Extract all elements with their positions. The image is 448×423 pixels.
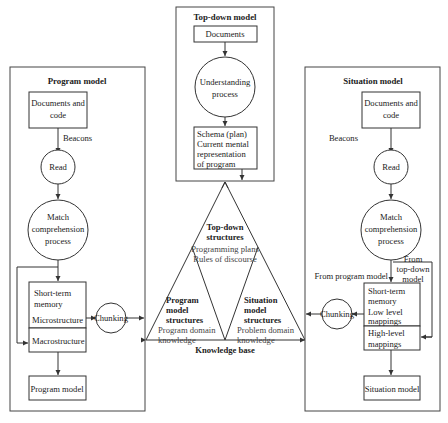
sm-from-top-down-1: From <box>404 254 423 264</box>
situation-model-panel: Situation model Documents and code Beaco… <box>305 67 440 411</box>
pm-output-label: Program model <box>30 384 84 394</box>
td-schema-line1: Schema (plan) <box>197 129 247 139</box>
td-understanding-line1: Understanding <box>200 77 251 87</box>
sm-match-line1: Match <box>380 212 403 222</box>
sm-output-label: Situation model <box>365 384 420 394</box>
sm-low-level-line2: mappings <box>368 316 402 326</box>
sm-from-program-label: From program model <box>314 271 388 281</box>
kb-top-down-title-1: Top-down <box>207 222 244 232</box>
integrated-comprehension-diagram: Program model Documents and code Beacons… <box>0 0 448 423</box>
kb-top-down-item-1: Programming plans <box>191 244 259 254</box>
td-understanding-line2: process <box>212 89 238 99</box>
pm-microstructure-label: Microstructure <box>32 315 83 325</box>
sm-high-level-line1: High-level <box>368 328 405 338</box>
pm-match-line1: Match <box>47 212 70 222</box>
sm-match-line3: process <box>378 236 404 246</box>
situation-model-title: Situation model <box>343 76 403 86</box>
sm-high-level-line2: mappings <box>368 339 402 349</box>
sm-stm-line2: memory <box>368 296 397 306</box>
pm-stm-line2: memory <box>34 299 63 309</box>
program-model-panel: Program model Documents and code Beacons… <box>10 67 145 411</box>
pm-macrostructure-label: Macrostructure <box>32 336 85 346</box>
sm-chunking-label: Chunking <box>320 309 355 319</box>
td-understanding-circle <box>195 57 255 117</box>
kb-label: Knowledge base <box>195 345 255 355</box>
kb-situation-item-1: Problem domain <box>237 325 295 335</box>
program-model-title: Program model <box>48 76 107 86</box>
top-down-model-panel: Top-down model Documents Understanding p… <box>176 7 274 181</box>
pm-match-line3: process <box>45 236 71 246</box>
kb-program-title-1: Program <box>166 295 200 305</box>
kb-situation-item-2: knowledge <box>237 335 275 345</box>
td-documents-label: Documents <box>205 29 245 39</box>
kb-top-down-item-2: Rules of discourse <box>193 254 257 264</box>
pm-documents-line1: Documents and <box>31 98 85 108</box>
kb-apex-arrow-left <box>222 182 225 188</box>
sm-read-label: Read <box>382 162 400 172</box>
td-schema-line4: of program <box>197 159 236 169</box>
sm-stm-line1: Short-term <box>368 286 406 296</box>
sm-beacons-label: Beacons <box>329 133 359 143</box>
kb-program-title-2: model <box>166 305 189 315</box>
kb-top-down-title-2: structures <box>206 232 244 242</box>
top-down-title: Top-down model <box>194 12 258 22</box>
pm-read-label: Read <box>49 162 67 172</box>
knowledge-base-triangle: Top-down structures Programming plans Ru… <box>146 182 305 355</box>
kb-situation-title-3: structures <box>244 315 282 325</box>
kb-apex-arrow-right <box>225 182 228 188</box>
kb-situation-title-1: Situation <box>244 295 278 305</box>
kb-program-item-2: knowledge <box>158 335 196 345</box>
pm-chunking-label: Chunking <box>94 313 129 323</box>
sm-documents-line1: Documents and <box>364 98 418 108</box>
td-schema-line3: representation <box>197 149 246 159</box>
sm-documents-line2: code <box>383 110 399 120</box>
kb-situation-title-2: model <box>244 305 267 315</box>
pm-match-line2: comprehension <box>32 224 85 234</box>
pm-stm-line1: Short-term <box>34 288 72 298</box>
kb-program-title-3: structures <box>166 315 204 325</box>
sm-from-top-down-2: top-down <box>397 264 431 274</box>
pm-documents-line2: code <box>50 110 66 120</box>
td-schema-line2: Current mental <box>197 139 249 149</box>
kb-program-item-1: Program domain <box>158 325 216 335</box>
sm-match-line2: comprehension <box>365 224 418 234</box>
pm-beacons-label: Beacons <box>63 133 93 143</box>
